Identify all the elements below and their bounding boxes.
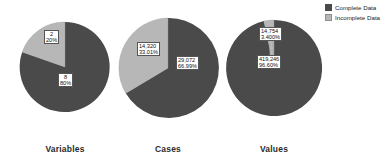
category-label-variables: Variables xyxy=(35,144,95,154)
legend-label-complete: Complete Data xyxy=(335,4,376,12)
legend-item-complete-data: Complete Data xyxy=(325,3,380,12)
category-label-cases: Cases xyxy=(140,144,196,154)
legend-label-incomplete: Incomplete Data xyxy=(335,14,380,22)
pie-variables xyxy=(20,22,110,112)
data-label-variables-incomplete: 2 20% xyxy=(44,30,59,44)
data-label-variables-complete: 8 80% xyxy=(58,73,73,87)
pie-chart-figure: 2 20% 8 80% 14,320 33.01% 29,072 66.99% … xyxy=(0,0,390,168)
data-label-cases-complete: 29,072 66.99% xyxy=(176,56,199,70)
legend-swatch-complete-icon xyxy=(325,4,332,11)
legend-swatch-incomplete-icon xyxy=(325,14,332,21)
data-label-percent: 80% xyxy=(60,80,71,86)
data-label-values-incomplete: 14,754 3.400% xyxy=(259,27,282,41)
data-label-cases-incomplete: 14,320 33.01% xyxy=(137,42,160,56)
chart-legend: Complete Data Incomplete Data xyxy=(325,3,380,23)
category-label-values: Values xyxy=(245,144,303,154)
legend-item-incomplete-data: Incomplete Data xyxy=(325,13,380,22)
data-label-percent: 33.01% xyxy=(139,49,158,55)
data-label-percent: 96.60% xyxy=(259,62,279,68)
data-label-percent: 66.99% xyxy=(178,63,197,69)
data-label-percent: 20% xyxy=(46,37,57,43)
pie-cases xyxy=(119,18,219,118)
data-label-percent: 3.400% xyxy=(261,34,280,40)
data-label-values-complete: 419,246 96.60% xyxy=(257,55,281,69)
